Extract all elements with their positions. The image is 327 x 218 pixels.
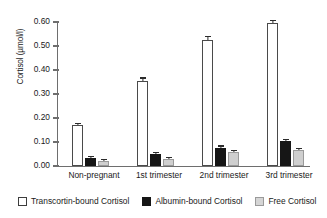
y-tick-mark xyxy=(53,21,59,22)
bar-rect xyxy=(85,158,96,166)
y-tick-mark xyxy=(53,141,59,142)
legend-item-2[interactable]: Free Cortisol xyxy=(255,196,316,206)
error-bar-cap xyxy=(231,150,237,151)
y-tick-label: 0.60 xyxy=(34,16,50,26)
bar-rect xyxy=(98,161,109,166)
bar-rect xyxy=(137,81,148,166)
y-tick-mark xyxy=(53,165,59,166)
error-bar-cap xyxy=(88,156,94,157)
y-tick-mark xyxy=(53,45,59,46)
legend-item-1[interactable]: Albumin-bound Cortisol xyxy=(142,196,242,206)
error-bar xyxy=(77,124,78,125)
bar-group-non-pregnant xyxy=(72,22,116,166)
error-bar xyxy=(220,147,221,148)
bar-rect xyxy=(293,150,304,166)
y-tick-mark xyxy=(53,117,59,118)
bar-rect xyxy=(150,154,161,166)
error-bar xyxy=(90,157,91,158)
x-axis-line xyxy=(57,166,310,167)
error-bar xyxy=(207,37,208,40)
error-bar-cap xyxy=(101,159,107,160)
error-bar-cap xyxy=(153,152,159,153)
y-tick-label: 0.00 xyxy=(34,160,50,170)
plot-area: 0.00 0.10 0.20 0.30 0.40 0.50 0.60 xyxy=(62,22,310,166)
error-bar xyxy=(285,140,286,141)
x-axis-label-3rd-trimester: 3rd trimester xyxy=(246,170,327,180)
error-bar-cap xyxy=(283,139,289,140)
error-bar-cap xyxy=(296,148,302,149)
bar-rect xyxy=(72,125,83,166)
bar-rect xyxy=(267,23,278,166)
error-bar xyxy=(233,151,234,152)
bar-rect xyxy=(202,40,213,166)
bar-rect xyxy=(280,141,291,166)
bar-rect xyxy=(215,148,226,166)
error-bar xyxy=(168,158,169,159)
y-tick-label: 0.20 xyxy=(34,112,50,122)
bar-group-1st-trimester xyxy=(137,22,181,166)
bar-group-3rd-trimester xyxy=(267,22,311,166)
error-bar xyxy=(103,160,104,161)
y-tick-mark xyxy=(53,69,59,70)
legend-item-0[interactable]: Transcortin-bound Cortisol xyxy=(18,196,129,206)
bar-group-2nd-trimester xyxy=(202,22,246,166)
legend-swatch-icon xyxy=(18,197,27,206)
y-tick-label: 0.30 xyxy=(34,88,50,98)
error-bar xyxy=(298,149,299,150)
error-bar xyxy=(142,79,143,81)
error-bar-cap xyxy=(75,123,81,124)
error-bar-cap xyxy=(205,36,211,37)
y-tick-label: 0.10 xyxy=(34,136,50,146)
y-tick-mark xyxy=(53,93,59,94)
legend-swatch-icon xyxy=(255,197,264,206)
error-bar xyxy=(272,21,273,23)
error-bar-cap xyxy=(140,77,146,78)
error-bar-cap xyxy=(218,145,224,146)
legend-swatch-icon xyxy=(142,197,151,206)
error-bar-cap xyxy=(166,157,172,158)
cortisol-bar-chart: Cortisol (µmol/l) 0.00 0.10 0.20 0.30 0.… xyxy=(0,0,327,218)
legend-label: Free Cortisol xyxy=(268,196,316,206)
y-axis-title: Cortisol (µmol/l) xyxy=(16,0,25,117)
y-tick-label: 0.50 xyxy=(34,40,50,50)
legend-label: Transcortin-bound Cortisol xyxy=(31,196,129,206)
bar-rect xyxy=(228,152,239,166)
legend-label: Albumin-bound Cortisol xyxy=(155,196,242,206)
y-tick-label: 0.40 xyxy=(34,64,50,74)
error-bar-cap xyxy=(270,20,276,21)
chart-legend: Transcortin-bound CortisolAlbumin-bound … xyxy=(18,196,316,206)
bar-rect xyxy=(163,159,174,166)
error-bar xyxy=(155,153,156,154)
